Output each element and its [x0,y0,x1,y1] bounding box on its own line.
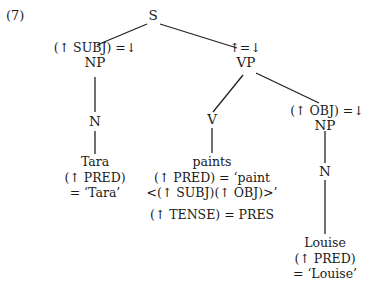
word-tara: Tara [81,155,109,169]
edge-vp-objnp [256,73,319,103]
vp-annotation: ↑=↓ [229,41,260,55]
word-louise: Louise [304,236,346,250]
node-np-obj: NP [315,118,336,132]
paints-pred-eq: (↑ PRED) = ‘paint [154,171,270,185]
node-s: S [148,8,157,22]
example-number: (7) [6,8,24,23]
word-paints: paints [193,155,232,169]
node-np-subj: NP [85,55,106,69]
node-v: V [207,112,217,126]
node-n-subj: N [89,114,101,128]
tara-pred-lhs: (↑ PRED) [64,171,125,185]
edge-s-vp [160,24,237,48]
subj-annotation: (↑ SUBJ) =↓ [54,41,136,55]
node-n-obj: N [319,164,331,178]
paints-subcat: <(↑ SUBJ)(↑ OBJ)>’ [146,186,277,200]
louise-pred-lhs: (↑ PRED) [294,252,355,266]
obj-annotation: (↑ OBJ) =↓ [290,104,364,118]
node-vp: VP [237,55,256,69]
louise-pred-rhs: = ‘Louise’ [293,267,357,281]
paints-tense-eq: (↑ TENSE) = PRES [150,208,274,222]
edge-vp-v [213,75,243,112]
tara-pred-rhs: = ‘Tara’ [70,186,121,200]
